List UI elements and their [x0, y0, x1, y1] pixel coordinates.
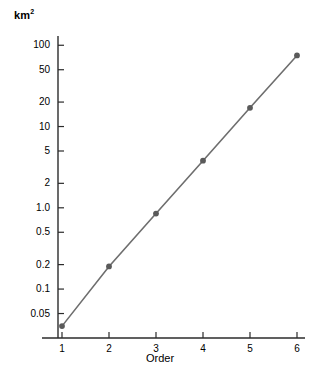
y-tick-label: 5 [0, 146, 50, 156]
axes-group [42, 36, 305, 338]
chart-container: km2 100502010521.00.50.20.10.05 123456 O… [0, 0, 312, 371]
x-tick-label: 2 [99, 344, 119, 354]
data-series-line [62, 55, 297, 326]
data-point-marker [200, 158, 206, 164]
y-tick-label: 1.0 [0, 203, 50, 213]
y-tick-label: 0.05 [0, 309, 50, 319]
x-tick-marks [62, 332, 297, 338]
data-point-markers [59, 53, 300, 330]
data-point-marker [153, 211, 159, 217]
y-tick-label: 0.1 [0, 284, 50, 294]
data-point-marker [247, 105, 253, 111]
y-tick-marks [58, 45, 64, 313]
y-tick-label: 50 [0, 65, 50, 75]
y-tick-label: 100 [0, 40, 50, 50]
data-point-marker [294, 53, 300, 59]
y-tick-label: 0.2 [0, 260, 50, 270]
x-axis-title: Order [120, 352, 200, 364]
y-tick-label: 20 [0, 97, 50, 107]
data-point-marker [106, 264, 112, 270]
y-tick-label: 0.5 [0, 227, 50, 237]
y-tick-label: 2 [0, 178, 50, 188]
data-point-marker [59, 323, 65, 329]
x-tick-label: 5 [240, 344, 260, 354]
x-tick-label: 1 [52, 344, 72, 354]
x-tick-label: 6 [287, 344, 307, 354]
y-tick-label: 10 [0, 122, 50, 132]
